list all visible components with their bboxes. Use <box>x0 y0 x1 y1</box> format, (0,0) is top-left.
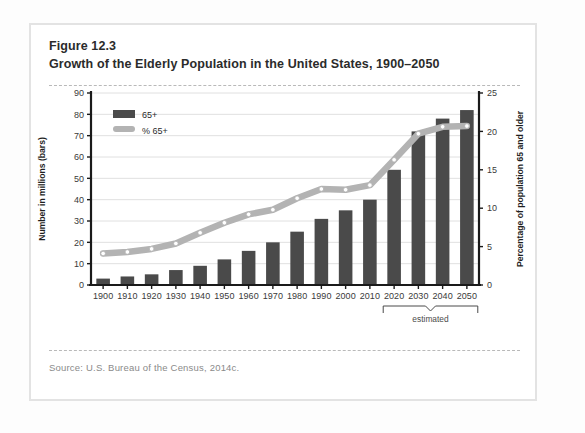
x-tick-label: 1900 <box>93 291 113 301</box>
bar <box>121 276 135 285</box>
legend-swatch-bar <box>113 110 135 118</box>
x-tick-label: 1960 <box>239 291 259 301</box>
elderly-population-chart: 0102030405060708090 0510152025 190019101… <box>31 85 536 350</box>
line-marker <box>416 131 421 136</box>
page-background: Figure 12.3 Growth of the Elderly Popula… <box>0 0 585 433</box>
x-tick-label: 2040 <box>433 291 453 301</box>
line-marker <box>125 250 130 255</box>
line-marker <box>319 187 324 192</box>
bar <box>193 266 207 285</box>
estimated-bracket: estimated <box>383 306 478 324</box>
y-tick-label: 50 <box>74 174 84 184</box>
y2-tick-label: 25 <box>487 88 497 98</box>
bar <box>290 232 304 285</box>
axis-titles: Number in millions (bars)Percentage of p… <box>37 110 525 267</box>
y2-tick-label: 20 <box>487 127 497 137</box>
legend-label-line: % 65+ <box>142 126 168 136</box>
line-marker <box>198 230 203 235</box>
y-axis-title: Number in millions (bars) <box>37 137 47 241</box>
bar <box>145 274 159 285</box>
x-tick-label: 1920 <box>142 291 162 301</box>
page-title: Growth of the Elderly Population in the … <box>49 57 440 71</box>
y-tick-label: 90 <box>74 88 84 98</box>
bar <box>315 219 329 285</box>
bar <box>460 110 474 285</box>
y2-axis-title: Percentage of population 65 and older <box>515 110 525 267</box>
line-marker <box>246 212 251 217</box>
y-axis-tick-labels: 0102030405060708090 <box>74 88 91 290</box>
bar <box>412 131 426 285</box>
figure-number: Figure 12.3 <box>49 39 116 53</box>
line-marker <box>465 124 470 129</box>
x-tick-label: 1950 <box>214 291 234 301</box>
x-tick-label: 2000 <box>336 291 356 301</box>
y2-tick-label: 0 <box>487 280 492 290</box>
bar <box>339 210 353 285</box>
bar <box>387 170 401 285</box>
y-tick-label: 30 <box>74 216 84 226</box>
y2-tick-label: 5 <box>487 242 492 252</box>
y-tick-label: 20 <box>74 238 84 248</box>
bar <box>169 270 183 285</box>
y-tick-label: 10 <box>74 259 84 269</box>
x-tick-label: 1980 <box>287 291 307 301</box>
source-note: Source: U.S. Bureau of the Census, 2014c… <box>49 362 239 373</box>
x-tick-label: 2020 <box>384 291 404 301</box>
estimated-brace <box>383 306 478 313</box>
line-marker <box>440 124 445 129</box>
chart-area: 0102030405060708090 0510152025 190019101… <box>31 85 536 350</box>
bar <box>242 251 256 285</box>
y2-axis-tick-labels: 0510152025 <box>479 88 497 290</box>
line-marker <box>368 183 373 188</box>
line-marker <box>392 158 397 163</box>
bar <box>363 200 377 285</box>
legend-label-bar: 65+ <box>142 110 157 120</box>
y-tick-label: 40 <box>74 195 84 205</box>
bar <box>436 119 450 285</box>
x-tick-label: 1930 <box>166 291 186 301</box>
bar <box>218 259 232 285</box>
x-axis-tick-labels: 1900191019201930194019501960197019801990… <box>93 285 477 301</box>
bar <box>266 242 280 285</box>
line-marker <box>222 220 227 225</box>
y-tick-label: 80 <box>74 110 84 120</box>
chart-legend: 65+% 65+ <box>113 110 168 136</box>
line-marker <box>174 241 179 246</box>
x-tick-label: 2030 <box>408 291 428 301</box>
line-marker <box>295 196 300 201</box>
line-marker <box>343 187 348 192</box>
legend-swatch-line <box>113 126 135 132</box>
x-tick-label: 1940 <box>190 291 210 301</box>
x-tick-label: 1970 <box>263 291 283 301</box>
line-marker <box>271 207 276 212</box>
x-tick-label: 2010 <box>360 291 380 301</box>
y2-tick-label: 10 <box>487 203 497 213</box>
line-marker <box>149 247 154 252</box>
y-tick-label: 60 <box>74 152 84 162</box>
x-tick-label: 1910 <box>117 291 137 301</box>
line-marker <box>101 251 106 256</box>
y-tick-label: 70 <box>74 131 84 141</box>
y2-tick-label: 15 <box>487 165 497 175</box>
divider-bottom <box>49 350 520 351</box>
x-tick-label: 1990 <box>311 291 331 301</box>
figure-card: Figure 12.3 Growth of the Elderly Popula… <box>29 23 537 401</box>
y-tick-label: 0 <box>79 280 84 290</box>
estimated-label: estimated <box>412 314 449 324</box>
x-tick-label: 2050 <box>457 291 477 301</box>
